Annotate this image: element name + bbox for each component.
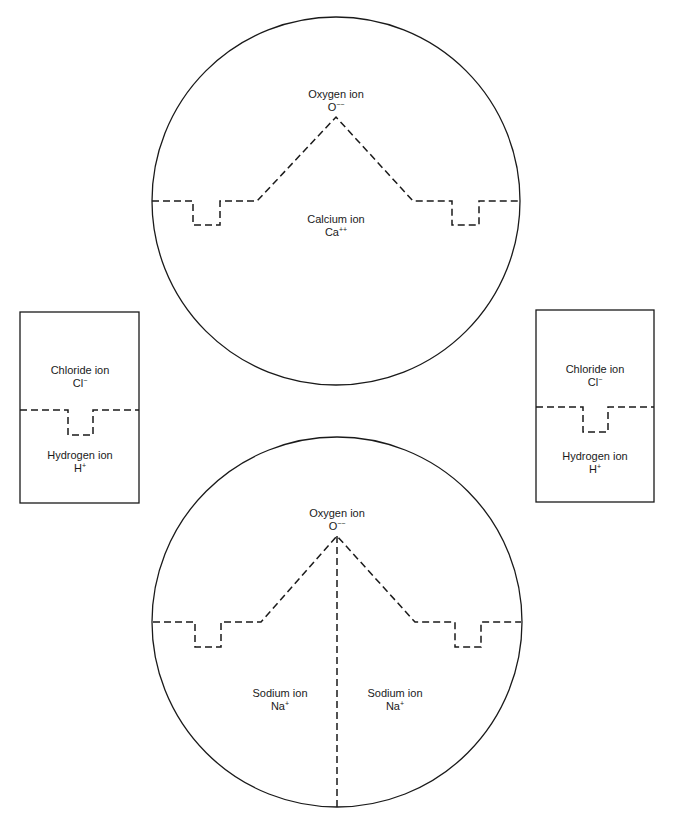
top-oxygen-name: Oxygen ion	[308, 88, 364, 101]
sodium-right-symbol: Na	[386, 700, 400, 712]
sodium-left-name: Sodium ion	[252, 687, 307, 700]
left-hydrogen-label: Hydrogen ion H+	[47, 449, 112, 475]
top-bond-boundary	[152, 117, 520, 225]
left-hydrogen-formula: H+	[47, 462, 112, 475]
bottom-oxygen-label: Oxygen ion O−−	[309, 507, 365, 533]
bottom-oxygen-charge: −−	[337, 520, 345, 527]
left-box-bond-boundary	[20, 410, 139, 435]
calcium-charge: ++	[339, 226, 347, 233]
sodium-left-formula: Na+	[252, 700, 307, 713]
top-oxygen-symbol: O	[328, 101, 337, 113]
top-oxygen-formula: O−−	[308, 101, 364, 114]
left-hydrogen-name: Hydrogen ion	[47, 449, 112, 462]
bottom-oxygen-name: Oxygen ion	[309, 507, 365, 520]
right-chloride-symbol: Cl	[588, 376, 598, 388]
calcium-formula: Ca++	[307, 226, 364, 239]
sodium-right-name: Sodium ion	[367, 687, 422, 700]
top-oxygen-label: Oxygen ion O−−	[308, 88, 364, 114]
diagram-shapes	[0, 0, 674, 828]
right-chloride-name: Chloride ion	[566, 363, 625, 376]
left-chloride-symbol: Cl	[73, 377, 83, 389]
sodium-right-formula: Na+	[367, 700, 422, 713]
right-chloride-charge: −	[598, 376, 602, 383]
left-chloride-formula: Cl−	[51, 377, 110, 390]
right-box-bond-boundary	[536, 407, 654, 432]
sodium-left-symbol: Na	[271, 700, 285, 712]
left-chloride-label: Chloride ion Cl−	[51, 364, 110, 390]
right-hydrogen-charge: +	[597, 463, 601, 470]
calcium-oxide-circle	[152, 17, 520, 385]
calcium-symbol: Ca	[325, 226, 339, 238]
left-chloride-name: Chloride ion	[51, 364, 110, 377]
calcium-name: Calcium ion	[307, 213, 364, 226]
left-hydrogen-charge: +	[82, 462, 86, 469]
right-hydrogen-formula: H+	[562, 463, 627, 476]
right-chloride-label: Chloride ion Cl−	[566, 363, 625, 389]
sodium-right-label: Sodium ion Na+	[367, 687, 422, 713]
right-hydrogen-symbol: H	[589, 463, 597, 475]
sodium-left-charge: +	[285, 700, 289, 707]
bottom-oxygen-symbol: O	[329, 520, 338, 532]
right-hydrogen-label: Hydrogen ion H+	[562, 450, 627, 476]
ion-diagram: Oxygen ion O−− Calcium ion Ca++ Chloride…	[0, 0, 674, 828]
right-hydrogen-name: Hydrogen ion	[562, 450, 627, 463]
sodium-right-charge: +	[400, 700, 404, 707]
left-hydrogen-symbol: H	[74, 462, 82, 474]
calcium-label: Calcium ion Ca++	[307, 213, 364, 239]
right-chloride-formula: Cl−	[566, 376, 625, 389]
left-chloride-charge: −	[83, 377, 87, 384]
top-oxygen-charge: −−	[336, 101, 344, 108]
bottom-oxygen-formula: O−−	[309, 520, 365, 533]
sodium-left-label: Sodium ion Na+	[252, 687, 307, 713]
